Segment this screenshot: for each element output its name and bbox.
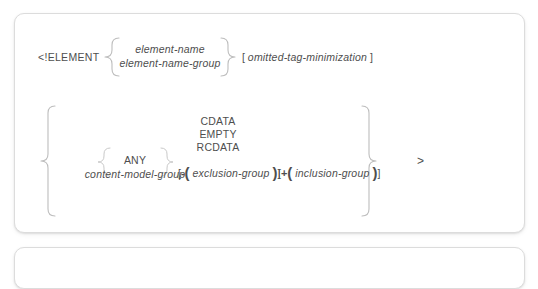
- row1-left-brace: [105, 38, 119, 76]
- inclusion-group-expression: [+( inclusion-group )]: [278, 167, 380, 180]
- brace-graphics: [15, 14, 524, 232]
- omitted-tag-close-bracket: ]: [370, 51, 373, 63]
- inclusion-group-label: inclusion-group: [295, 167, 369, 179]
- element-name-option: element-name: [135, 43, 205, 56]
- declaration-terminator: >: [417, 154, 424, 168]
- exclusion-open-paren: (: [185, 164, 190, 181]
- inclusion-close-bracket: ]: [377, 167, 380, 179]
- omitted-tag-minimization-expression: [ omitted-tag-minimization ]: [242, 51, 373, 64]
- exclusion-group-label: exclusion-group: [193, 167, 270, 179]
- row1-right-brace: [221, 38, 235, 76]
- content-right-outer-brace: [362, 106, 376, 216]
- omitted-tag-open-bracket: [: [242, 51, 245, 63]
- content-left-outer-brace: [41, 106, 55, 216]
- element-keyword: <!ELEMENT: [38, 51, 99, 64]
- syntax-diagram: <!ELEMENT element-name element-name-grou…: [15, 14, 524, 232]
- omitted-tag-minimization-label: omitted-tag-minimization: [248, 51, 367, 63]
- element-name-group-option: element-name-group: [119, 57, 220, 70]
- content-keyword-empty: EMPTY: [199, 128, 236, 141]
- exclusion-group-expression: [-( exclusion-group )]: [178, 167, 281, 180]
- next-diagram-card: [14, 247, 525, 289]
- content-alternative-any: ANY: [124, 154, 146, 167]
- content-model-group-label: content-model-group: [85, 168, 186, 181]
- inclusion-open-paren: (: [287, 164, 292, 181]
- content-keyword-rcdata: RCDATA: [197, 141, 240, 154]
- element-declaration-diagram-card: <!ELEMENT element-name element-name-grou…: [14, 13, 525, 233]
- content-keyword-cdata: CDATA: [200, 115, 235, 128]
